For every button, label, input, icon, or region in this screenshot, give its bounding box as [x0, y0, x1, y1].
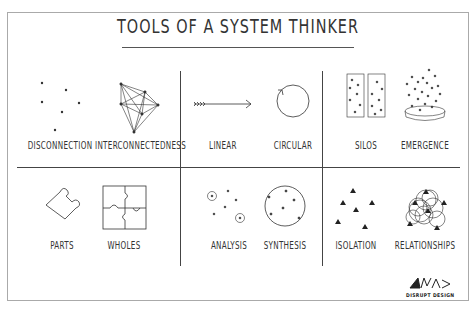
emergence-icon [405, 69, 445, 120]
circular-arrow-icon [277, 85, 309, 117]
analysis-icon [208, 190, 245, 222]
complete-puzzle-icon [103, 186, 146, 229]
puzzle-piece-icon [46, 188, 80, 219]
label-relationships: RELATIONSHIPS [380, 240, 470, 252]
linear-arrow-icon [194, 100, 251, 108]
label-interconnectedness: INTERCONNECTEDNESS [95, 140, 185, 152]
isolation-icon [335, 188, 375, 229]
logo-text: DISRUPT DESIGN [406, 292, 454, 298]
disconnection-icon [41, 82, 80, 131]
label-disconnection: DISCONNECTION [15, 140, 105, 152]
interconnectedness-icon [120, 83, 159, 133]
synthesis-icon [265, 186, 305, 226]
disrupt-design-logo-icon [410, 278, 450, 288]
diagram-artwork [0, 0, 476, 310]
relationships-icon [406, 189, 447, 230]
label-emergence: EMERGENCE [380, 140, 470, 152]
label-wholes: WHOLES [79, 240, 169, 252]
silos-icon [347, 74, 385, 117]
